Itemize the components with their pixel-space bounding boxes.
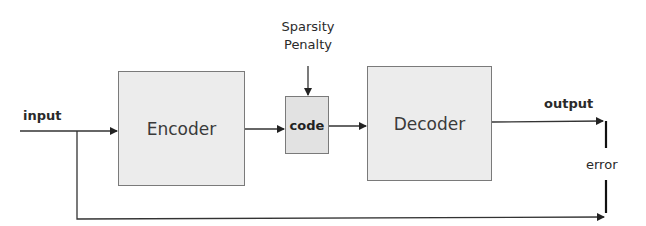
code-box: code <box>285 96 329 154</box>
error-label: error <box>586 157 617 172</box>
output-label: output <box>544 96 593 111</box>
code-label: code <box>290 118 325 133</box>
penalty-line-2: Penalty <box>275 36 341 54</box>
decoder-box: Decoder <box>367 66 492 181</box>
encoder-label: Encoder <box>147 119 217 139</box>
encoder-box: Encoder <box>118 71 245 186</box>
sparsity-penalty-label: Sparsity Penalty <box>275 18 341 54</box>
output-arrow <box>492 121 603 122</box>
input-label: input <box>23 108 62 123</box>
decoder-label: Decoder <box>394 114 466 134</box>
penalty-line-1: Sparsity <box>275 18 341 36</box>
